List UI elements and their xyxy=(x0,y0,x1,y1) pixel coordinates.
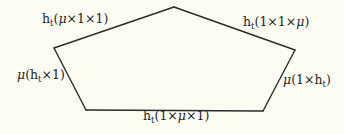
label-prefix: μ xyxy=(283,72,291,87)
label-arg: 1 xyxy=(259,14,267,29)
label-prefix: h xyxy=(143,108,151,123)
label-subscript: t xyxy=(50,18,53,28)
label-subscript: t xyxy=(323,79,326,89)
label-subscript: t xyxy=(251,21,254,31)
label-arg: 1 xyxy=(95,11,103,26)
label-left: μ(ht×1) xyxy=(17,69,65,82)
label-prefix: μ xyxy=(17,67,25,82)
label-prefix: h xyxy=(42,11,50,26)
pentagon-diagram: ht(μ×1×1) ht(1×1×μ) μ(ht×1) μ(1×ht) ht(1… xyxy=(0,0,344,134)
label-arg: 1 xyxy=(196,108,204,123)
label-arg: μ xyxy=(58,11,66,26)
label-top-left: ht(μ×1×1) xyxy=(42,13,108,26)
label-arg: 1 xyxy=(278,14,286,29)
label-arg: 1 xyxy=(296,72,304,87)
label-arg: μ xyxy=(296,14,304,29)
label-subscript: t xyxy=(38,74,41,84)
label-prefix: h xyxy=(243,14,251,29)
label-bottom: ht(1×μ×1) xyxy=(143,110,209,123)
label-right: μ(1×ht) xyxy=(283,74,331,87)
label-subscript: t xyxy=(151,115,154,125)
label-arg: 1 xyxy=(77,11,85,26)
label-arg: 1 xyxy=(159,108,167,123)
label-top-right: ht(1×1×μ) xyxy=(243,16,309,29)
label-arg: μ xyxy=(178,108,186,123)
label-arg: 1 xyxy=(52,67,60,82)
